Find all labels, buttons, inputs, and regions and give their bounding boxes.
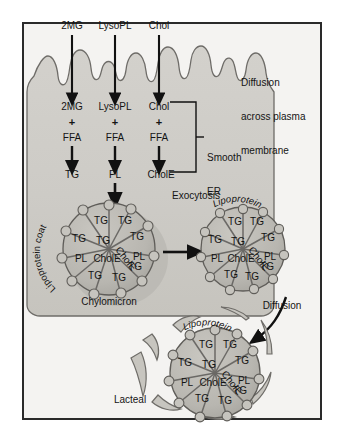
ffa-label-2: FFA (106, 132, 124, 143)
core-label: TG (250, 216, 264, 227)
core-label: TG (235, 355, 249, 366)
core-label: TG (218, 395, 232, 406)
core-label: TG (72, 233, 86, 244)
core-label: TG (199, 339, 213, 350)
core-label: TG (260, 261, 274, 272)
core-label: TG (88, 270, 102, 281)
chylomicron-lacteal (164, 325, 264, 422)
core-label: TG (94, 215, 108, 226)
lumen-label-2mg: 2MG (61, 20, 83, 31)
diffusion-lacteal-label: Diffusion (263, 300, 302, 311)
core-label: TG (261, 232, 275, 243)
cytosol-label-2mg: 2MG (61, 101, 83, 112)
lumen-label-lysopl: LysoPL (99, 20, 132, 31)
plus-sign-1: + (69, 116, 75, 128)
diffusion-line-3: membrane (241, 145, 305, 156)
core-label: TG (208, 234, 222, 245)
core-label: TG (118, 215, 132, 226)
lumen-label-chol: Chol (149, 20, 170, 31)
core-label: TG (96, 235, 110, 246)
plus-sign-2: + (112, 116, 118, 128)
diffusion-line-1: Diffusion (241, 77, 305, 88)
core-label: CholE (199, 377, 226, 388)
smooth-er-line-1: Smooth (207, 152, 241, 163)
lacteal-caption: Lacteal (114, 394, 146, 405)
core-label: TG (233, 385, 247, 396)
chylomicron-caption: Chylomicron (81, 296, 137, 307)
core-label: TG (195, 393, 209, 404)
exocytosis-label: Exocytosis (172, 190, 220, 201)
diffusion-line-2: across plasma (241, 111, 305, 122)
plus-sign-3: + (156, 116, 162, 128)
core-label: CholE (93, 253, 120, 264)
figure-canvas: Lipoprotein coat Lipoprotein Lipoprotein… (0, 0, 344, 442)
core-label: TG (128, 261, 142, 272)
core-label: TG (223, 339, 237, 350)
cytosol-label-lysopl: LysoPL (99, 101, 132, 112)
core-label: TG (178, 357, 192, 368)
ffa-label-1: FFA (63, 132, 81, 143)
product-label-chole: CholE (147, 169, 174, 180)
smooth-er-annotation: Smooth ER (207, 130, 241, 220)
core-label: TG (224, 269, 238, 280)
core-label: TG (245, 271, 259, 282)
core-label: TG (202, 359, 216, 370)
core-label: TG (228, 216, 242, 227)
core-label: PL (75, 253, 87, 264)
core-label: TG (130, 231, 144, 242)
diffusion-membrane-annotation: Diffusion across plasma membrane (241, 55, 305, 178)
product-label-pl: PL (109, 169, 121, 180)
core-label: PL (181, 377, 193, 388)
core-label: PL (211, 253, 223, 264)
ffa-label-3: FFA (150, 132, 168, 143)
cytosol-label-chol: Chol (149, 101, 170, 112)
core-label: TG (231, 236, 245, 247)
product-label-tg: TG (65, 169, 79, 180)
core-label: TG (112, 272, 126, 283)
core-label: CholE (227, 253, 254, 264)
